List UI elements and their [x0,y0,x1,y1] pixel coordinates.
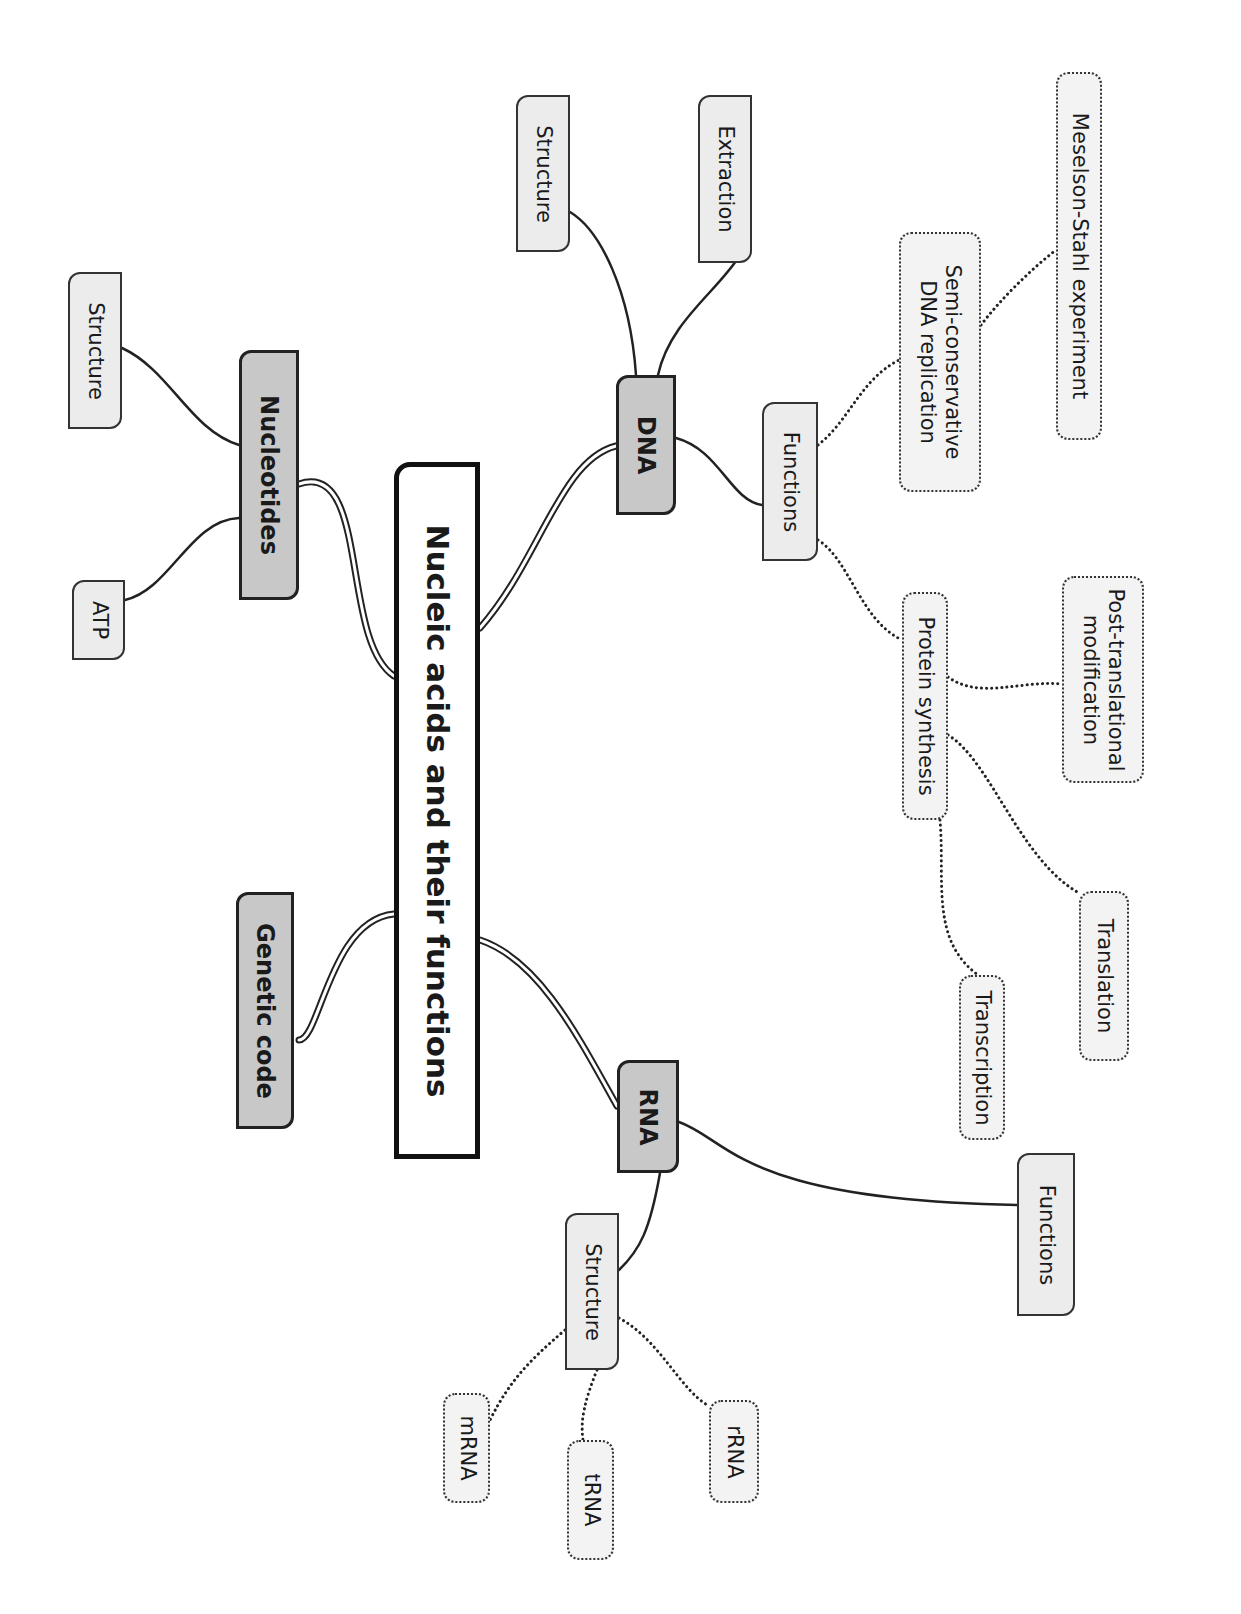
connector-dna-dna_functions [676,438,762,505]
node-label: Meselson-Stahl experiment [1066,113,1091,399]
node-trna[interactable]: tRNA [567,1440,614,1560]
node-label: mRNA [454,1415,479,1480]
node-label: Transcription [969,990,994,1125]
connector-dna-dna_extraction [658,252,742,375]
connector-nucleotides-atp [125,518,239,600]
node-label: Structure [579,1243,604,1341]
node-label: Semi-conservative DNA replication [915,264,965,459]
node-post-translational[interactable]: Post-translational modification [1062,576,1144,783]
node-label: Nucleotides [255,395,284,555]
connector-rna_structure-mrna [490,1330,565,1420]
connector-protein_synthesis-post_translational [948,677,1062,688]
node-rrna[interactable]: rRNA [709,1400,759,1503]
node-protein-synthesis[interactable]: Protein synthesis [902,592,948,820]
node-label: Extraction [712,125,737,232]
node-nucleotides[interactable]: Nucleotides [239,350,299,600]
connector-root-nucleotides [299,482,394,676]
node-rna[interactable]: RNA [617,1060,679,1173]
connector-root-rna [480,940,617,1106]
connector-layer [0,0,1241,1614]
connector-rna-rna_structure [619,1173,660,1270]
node-rna-structure[interactable]: Structure [565,1213,619,1370]
node-meselson-stahl[interactable]: Meselson-Stahl experiment [1056,72,1102,440]
connector-dna_functions-protein_synthesis [818,540,902,640]
node-label: RNA [634,1088,663,1145]
node-label: Nucleic acids and their functions [418,524,455,1097]
node-label: Translation [1091,919,1116,1033]
node-root[interactable]: Nucleic acids and their functions [394,462,480,1159]
connector-rna_structure-trna [582,1370,597,1440]
connector-root-dna [480,446,616,628]
connector-nucleotides-nuc_structure [122,348,239,445]
connector-root-rna [480,940,617,1106]
connector-dna-dna_structure [570,212,636,375]
node-label: Genetic code [251,923,280,1099]
connector-dna_functions-semi_conservative [818,360,899,445]
node-label: ATP [86,601,111,639]
connector-root-genetic_code [299,914,394,1040]
node-label: Post-translational modification [1078,588,1128,771]
node-label: Structure [82,302,107,400]
node-label: DNA [632,416,661,475]
connector-protein_synthesis-transcription [940,820,978,975]
connector-protein_synthesis-translation [948,735,1079,893]
node-mrna[interactable]: mRNA [443,1393,490,1503]
connector-root-nucleotides [299,482,394,676]
connector-rna_structure-rrna [619,1318,709,1406]
node-dna-functions[interactable]: Functions [762,402,818,561]
node-label: rRNA [721,1425,746,1478]
node-dna-structure[interactable]: Structure [516,95,570,252]
node-label: tRNA [578,1474,603,1527]
node-atp[interactable]: ATP [72,580,125,660]
node-dna-extraction[interactable]: Extraction [698,95,752,263]
mind-map-canvas: Nucleic acids and their functions DNA RN… [0,0,1241,1614]
node-genetic-code[interactable]: Genetic code [236,892,294,1129]
node-dna[interactable]: DNA [616,375,676,515]
node-rna-functions[interactable]: Functions [1017,1153,1075,1316]
node-label: Functions [777,431,802,531]
node-label: Functions [1033,1184,1058,1284]
node-transcription[interactable]: Transcription [959,975,1005,1140]
connector-semi_conservative-meselson_stahl [981,250,1056,325]
node-label: Structure [530,125,555,223]
node-semi-conservative[interactable]: Semi-conservative DNA replication [899,232,981,492]
node-nuc-structure[interactable]: Structure [68,272,122,429]
node-translation[interactable]: Translation [1079,891,1129,1061]
node-label: Protein synthesis [912,616,937,795]
